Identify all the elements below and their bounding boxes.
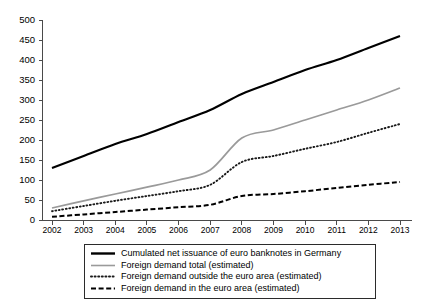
- x-tick-label: 2005: [137, 225, 156, 235]
- y-tick-label: 350: [19, 74, 35, 85]
- x-tick-label: 2007: [201, 225, 220, 235]
- x-tick-label: 2013: [391, 225, 410, 235]
- y-tick-label: 200: [19, 134, 35, 145]
- legend-item[interactable]: Foreign demand total (estimated): [90, 260, 370, 272]
- x-tick-label: 2004: [106, 225, 125, 235]
- legend-item-label: Foreign demand in the euro area (estimat…: [121, 283, 300, 294]
- x-tick-label: 2002: [43, 225, 62, 235]
- y-tick-label: 250: [19, 114, 35, 125]
- y-tick-label: 400: [19, 54, 35, 65]
- chart-figure: 050100150200250300350400450500 200220032…: [0, 0, 424, 301]
- legend-item[interactable]: Cumulated net issuance of euro banknotes…: [90, 248, 370, 260]
- legend-line-swatch-icon: [90, 248, 116, 259]
- y-tick-label: 500: [19, 14, 35, 25]
- x-tick-label: 2009: [264, 225, 283, 235]
- legend-line-swatch-icon: [90, 260, 116, 271]
- x-tick-label: 2011: [328, 225, 347, 235]
- series-line: [52, 124, 400, 211]
- y-tick-label: 150: [19, 154, 35, 165]
- y-tick-label: 0: [30, 214, 35, 225]
- y-tick-label: 450: [19, 34, 35, 45]
- x-tick-label: 2003: [74, 225, 93, 235]
- plot-area: 050100150200250300350400450500 200220032…: [0, 0, 424, 236]
- legend-line-swatch-icon: [90, 271, 116, 282]
- series-line: [52, 182, 400, 217]
- x-tick-label: 2012: [359, 225, 378, 235]
- legend-line-swatch-icon: [90, 283, 116, 294]
- x-tick-label: 2006: [169, 225, 188, 235]
- x-tick-label: 2008: [232, 225, 251, 235]
- x-axis-tick-labels: 2002200320042005200620072008200920102011…: [43, 225, 410, 235]
- y-tick-label: 50: [24, 194, 35, 205]
- x-axis-ticks: [52, 221, 400, 225]
- y-tick-label: 300: [19, 94, 35, 105]
- chart-legend: Cumulated net issuance of euro banknotes…: [84, 244, 376, 299]
- legend-item-label: Foreign demand total (estimated): [121, 260, 254, 271]
- legend-item[interactable]: Foreign demand outside the euro area (es…: [90, 271, 370, 283]
- legend-item[interactable]: Foreign demand in the euro area (estimat…: [90, 283, 370, 295]
- y-axis-tick-labels: 050100150200250300350400450500: [19, 14, 35, 225]
- line-chart-svg: 050100150200250300350400450500 200220032…: [0, 0, 424, 236]
- y-axis-ticks: [39, 20, 43, 220]
- data-series-group: [52, 36, 400, 217]
- x-tick-label: 2010: [296, 225, 315, 235]
- y-tick-label: 100: [19, 174, 35, 185]
- series-line: [52, 36, 400, 168]
- legend-item-label: Foreign demand outside the euro area (es…: [121, 271, 322, 282]
- legend-item-label: Cumulated net issuance of euro banknotes…: [121, 248, 341, 259]
